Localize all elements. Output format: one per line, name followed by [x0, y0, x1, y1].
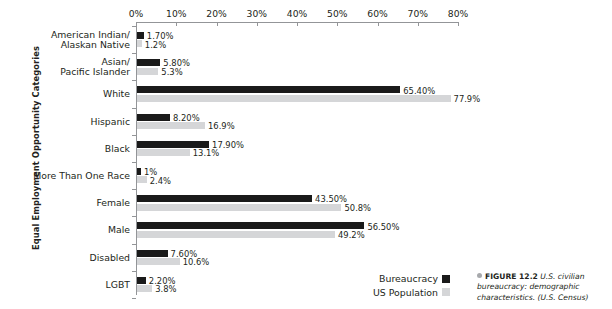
x-axis-tick-label: 30%: [247, 8, 267, 19]
bar-value-label: 2.4%: [150, 177, 171, 185]
y-axis-tick: [132, 80, 136, 81]
chart-legend: BureaucracyUS Population: [345, 272, 450, 299]
legend-swatch-uspopulation: [442, 288, 450, 296]
x-axis-tick-label: 0%: [129, 8, 144, 19]
x-axis-tick-label: 20%: [206, 8, 226, 19]
bullet-icon: [477, 273, 482, 278]
y-axis-tick: [132, 271, 136, 272]
category-label: More Than One Race: [0, 171, 130, 182]
bar-value-label: 3.8%: [155, 285, 176, 293]
category-label: White: [0, 89, 130, 100]
legend-swatch-bureaucracy: [442, 275, 450, 283]
x-axis-tick: [378, 22, 379, 26]
category-label: Black: [0, 144, 130, 155]
x-axis-tick: [217, 22, 218, 26]
x-axis-tick: [337, 22, 338, 26]
bar-bureaucracy: [137, 141, 209, 148]
bar-value-label: 43.50%: [315, 195, 347, 203]
x-axis-tick: [458, 22, 459, 26]
y-axis-tick: [132, 298, 136, 299]
figure-caption: FIGURE 12.2 U.S. civilian bureaucracy: d…: [477, 272, 609, 303]
bar-us-population: [137, 204, 341, 211]
bar-value-label: 13.1%: [193, 149, 220, 157]
x-axis-tick-label: 10%: [166, 8, 186, 19]
category-label: Hispanic: [0, 117, 130, 128]
legend-item: US Population: [345, 286, 450, 300]
bar-us-population: [137, 95, 451, 102]
bar-us-population: [137, 258, 180, 265]
bar-value-label: 5.3%: [161, 68, 182, 76]
x-axis-tick-label: 80%: [448, 8, 468, 19]
bar-us-population: [137, 68, 158, 75]
x-axis-tick: [418, 22, 419, 26]
bar-value-label: 1.2%: [145, 41, 166, 49]
y-axis-tick: [132, 216, 136, 217]
bar-us-population: [137, 122, 205, 129]
category-label: Female: [0, 198, 130, 209]
y-axis-tick: [132, 26, 136, 27]
bar-us-population: [137, 285, 152, 292]
bar-bureaucracy: [137, 250, 168, 257]
category-label: Asian/ Pacific Islander: [0, 57, 130, 78]
figure-container: Equal Employment Opportunity Categories …: [0, 0, 612, 309]
y-axis-tick: [132, 244, 136, 245]
y-axis-tick: [132, 53, 136, 54]
bar-bureaucracy: [137, 222, 364, 229]
y-axis-tick: [132, 135, 136, 136]
x-axis-tick: [176, 22, 177, 26]
y-axis-tick: [132, 189, 136, 190]
x-axis-tick-label: 70%: [408, 8, 428, 19]
category-label: Disabled: [0, 253, 130, 264]
bar-bureaucracy: [137, 168, 141, 175]
x-axis-tick-label: 40%: [287, 8, 307, 19]
x-axis-tick: [297, 22, 298, 26]
bar-bureaucracy: [137, 59, 160, 66]
bar-bureaucracy: [137, 277, 146, 284]
bar-value-label: 77.9%: [454, 95, 481, 103]
legend-label: US Population: [373, 286, 438, 300]
bar-value-label: 50.8%: [344, 204, 371, 212]
bar-value-label: 16.9%: [208, 122, 235, 130]
bar-value-label: 65.40%: [403, 87, 435, 95]
x-axis-tick-label: 50%: [327, 8, 347, 19]
bar-value-label: 49.2%: [338, 231, 365, 239]
category-label: LGBT: [0, 280, 130, 291]
caption-figure-number: FIGURE 12.2: [485, 272, 538, 281]
bar-bureaucracy: [137, 32, 144, 39]
x-axis-tick-label: 60%: [367, 8, 387, 19]
bar-us-population: [137, 40, 142, 47]
x-axis-tick: [136, 22, 137, 26]
bar-us-population: [137, 176, 147, 183]
bar-us-population: [137, 231, 335, 238]
x-axis-tick: [257, 22, 258, 26]
y-axis-tick: [132, 162, 136, 163]
category-label: American Indian/ Alaskan Native: [0, 30, 130, 51]
bar-bureaucracy: [137, 195, 312, 202]
y-axis-tick: [132, 108, 136, 109]
legend-label: Bureaucracy: [379, 272, 438, 286]
bar-bureaucracy: [137, 114, 170, 121]
plot-area: 0%10%20%30%40%50%60%70%80% 1.70%1.2%5.80…: [136, 22, 458, 295]
bar-value-label: 10.6%: [183, 258, 210, 266]
legend-item: Bureaucracy: [345, 272, 450, 286]
bar-value-label: 8.20%: [173, 114, 200, 122]
bar-us-population: [137, 149, 190, 156]
bar-value-label: 56.50%: [367, 223, 399, 231]
bar-bureaucracy: [137, 86, 400, 93]
category-label: Male: [0, 225, 130, 236]
